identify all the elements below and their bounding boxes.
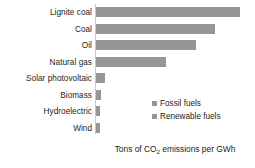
bar-row: Solar photovoltaic bbox=[0, 70, 255, 87]
category-label: Wind bbox=[73, 123, 92, 132]
bar-oil[interactable] bbox=[96, 40, 196, 50]
bar-biomass[interactable] bbox=[96, 90, 101, 100]
category-label: Lignite coal bbox=[50, 8, 92, 17]
x-axis-label-after: emissions per GWh bbox=[160, 144, 235, 154]
bar-coal[interactable] bbox=[96, 24, 215, 34]
bar-wind[interactable] bbox=[96, 123, 100, 133]
legend-label: Fossil fuels bbox=[160, 99, 201, 108]
legend-item-renewable-fuels[interactable]: Renewable fuels bbox=[152, 110, 247, 122]
x-axis-label-subscript: 2 bbox=[157, 148, 160, 155]
legend-swatch-icon bbox=[152, 101, 157, 106]
x-axis-label: Tons of CO2 emissions per GWh bbox=[95, 144, 255, 155]
bar-row: Coal bbox=[0, 21, 255, 38]
chart-figure: Lignite coal Coal Oil Natural gas Solar … bbox=[0, 0, 255, 168]
category-label: Oil bbox=[82, 41, 92, 50]
category-label: Biomass bbox=[60, 90, 92, 99]
chart-legend: Fossil fuels Renewable fuels bbox=[152, 97, 247, 123]
plot-area: Lignite coal Coal Oil Natural gas Solar … bbox=[0, 0, 255, 137]
bar-row: Natural gas bbox=[0, 54, 255, 71]
category-label: Solar photovoltaic bbox=[26, 74, 92, 83]
bar-hydroelectric[interactable] bbox=[96, 106, 100, 116]
legend-label: Renewable fuels bbox=[160, 112, 221, 121]
bar-row: Lignite coal bbox=[0, 4, 255, 21]
category-label: Coal bbox=[75, 24, 92, 33]
bar-lignite-coal[interactable] bbox=[96, 7, 240, 17]
bar-natural-gas[interactable] bbox=[96, 57, 166, 67]
category-label: Hydroelectric bbox=[44, 107, 92, 116]
bar-row: Oil bbox=[0, 37, 255, 54]
x-axis-label-before: Tons of CO bbox=[115, 144, 157, 154]
legend-swatch-icon bbox=[152, 114, 157, 119]
bar-solar-photovoltaic[interactable] bbox=[96, 73, 105, 83]
legend-item-fossil-fuels[interactable]: Fossil fuels bbox=[152, 97, 247, 109]
category-label: Natural gas bbox=[50, 57, 92, 66]
